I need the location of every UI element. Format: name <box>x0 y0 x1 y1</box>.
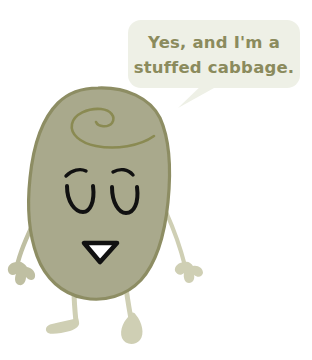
speech-bubble-line-1: Yes, and I'm a <box>147 33 280 52</box>
speech-bubble-body <box>128 20 300 88</box>
character-body <box>29 88 170 299</box>
cartoon-illustration: Yes, and I'm a stuffed cabbage. <box>0 0 312 360</box>
right-hand <box>175 262 203 283</box>
speech-bubble-line-2: stuffed cabbage. <box>134 58 295 77</box>
speech-bubble: Yes, and I'm a stuffed cabbage. <box>128 20 300 108</box>
illustration-canvas: Yes, and I'm a stuffed cabbage. <box>0 0 312 360</box>
body-blob <box>29 88 170 299</box>
right-leg-straight <box>121 288 142 344</box>
right-foot <box>121 313 142 344</box>
left-foot <box>46 318 79 334</box>
left-hand <box>8 262 35 285</box>
right-arm <box>166 212 203 283</box>
